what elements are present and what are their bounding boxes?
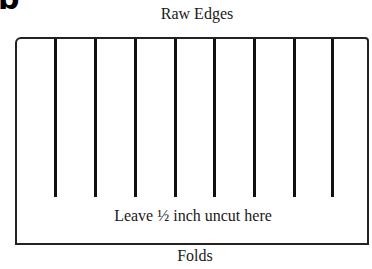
- cut-line: [94, 39, 97, 197]
- cut-line: [213, 39, 216, 197]
- folds-label: Folds: [0, 247, 372, 265]
- cut-line: [331, 39, 334, 197]
- cut-line: [174, 39, 177, 197]
- uncut-note: Leave ½ inch uncut here: [15, 207, 371, 225]
- cut-line: [54, 39, 57, 197]
- cut-line: [293, 39, 296, 197]
- raw-edges-label: Raw Edges: [0, 5, 372, 23]
- cut-line: [134, 39, 137, 197]
- cut-line: [253, 39, 256, 197]
